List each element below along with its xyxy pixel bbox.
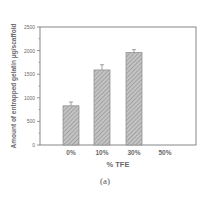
y-tick-label: 2500 [24, 24, 35, 30]
y-tick-label: 1500 [24, 71, 35, 77]
bar-10pct [94, 70, 110, 145]
y-axis-label: Amount of entrapped gelatin μg/scaffold [10, 23, 18, 148]
x-tick-label: 50% [158, 149, 171, 156]
bar-chart: 05001000150020002500 0%10%30%50% % TFE A… [0, 0, 210, 198]
y-tick-label: 0 [32, 142, 35, 148]
x-tick-label: 0% [66, 149, 76, 156]
bars [63, 50, 142, 145]
y-tick-label: 1000 [24, 95, 35, 101]
y-axis: 05001000150020002500 [24, 24, 40, 148]
bar-30pct [126, 52, 142, 145]
x-tick-label: 10% [95, 149, 108, 156]
y-tick-label: 500 [27, 118, 36, 124]
x-axis-label: % TFE [107, 160, 130, 169]
x-tick-label: 30% [127, 149, 140, 156]
x-axis: 0%10%30%50% [66, 149, 171, 156]
chart-canvas: 05001000150020002500 0%10%30%50% % TFE A… [0, 0, 210, 198]
bar-0pct [63, 106, 79, 145]
y-tick-label: 2000 [24, 48, 35, 54]
figure-caption: (a) [0, 176, 210, 186]
